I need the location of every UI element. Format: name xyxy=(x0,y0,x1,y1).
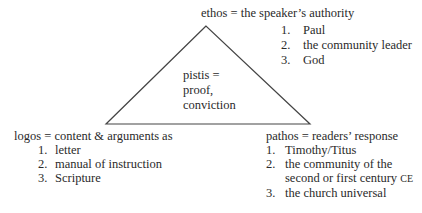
pistis-line-1: pistis = xyxy=(183,68,220,82)
logos-item-3-number: 3. xyxy=(38,171,47,185)
pathos-item-2-continuation: second or first century CE xyxy=(285,171,413,186)
ethos-item-3-number: 3. xyxy=(281,53,290,67)
pathos-item-1-number: 1. xyxy=(266,143,275,157)
pathos-item-2-number: 2. xyxy=(266,157,275,171)
logos-item-2-number: 2. xyxy=(38,157,47,171)
logos-item-1: letter xyxy=(55,143,81,157)
pistis-line-2: proof, xyxy=(183,83,213,97)
ethos-item-2-number: 2. xyxy=(281,38,290,52)
logos-item-3: Scripture xyxy=(55,171,101,185)
ethos-item-1: Paul xyxy=(303,23,325,37)
pathos-item-2-cont-text: second or first century xyxy=(285,171,397,185)
ethos-item-2: the community leader xyxy=(303,38,412,52)
pistis-line-3: conviction xyxy=(183,98,236,112)
ethos-item-1-number: 1. xyxy=(281,23,290,37)
logos-item-2: manual of instruction xyxy=(55,157,162,171)
pathos-heading: pathos = readers’ response xyxy=(266,129,398,143)
pathos-item-3: the church universal xyxy=(285,186,386,200)
pathos-item-1: Timothy/Titus xyxy=(285,143,356,157)
era-suffix: CE xyxy=(400,173,413,184)
ethos-item-3: God xyxy=(303,53,325,67)
pathos-item-2: the community of the xyxy=(285,157,392,171)
logos-heading: logos = content & arguments as xyxy=(14,129,173,143)
pathos-item-3-number: 3. xyxy=(266,186,275,200)
logos-item-1-number: 1. xyxy=(38,143,47,157)
ethos-heading: ethos = the speaker’s authority xyxy=(201,6,354,20)
